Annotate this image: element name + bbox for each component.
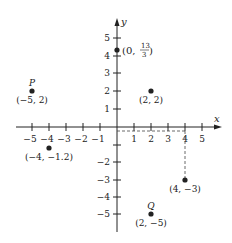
point-p-label: (−5, 2) [16,95,48,105]
svg-text:3: 3 [165,134,171,144]
svg-text:−2: −2 [97,157,110,167]
x-tick-labels: −5 −4 −3 −2 −1 1 2 3 4 5 [23,134,205,144]
svg-text:−4: −4 [40,134,54,144]
x-axis-label: x [214,113,220,124]
point-2-2 [148,88,153,93]
y-tick-labels: 5 4 3 2 1 −2 −3 −4 −5 [97,33,111,219]
point-0-13-3 [114,47,119,52]
point-q-name: Q [147,201,155,211]
svg-text:5: 5 [199,134,205,144]
svg-text:−5: −5 [97,209,111,219]
point-0-13-3-label-open: (0, [122,45,135,56]
svg-text:4: 4 [104,51,110,61]
point-4-m3 [182,177,187,182]
svg-text:−3: −3 [57,134,71,144]
svg-text:1: 1 [131,134,137,144]
svg-text:−2: −2 [74,134,87,144]
point-p [29,88,34,93]
svg-text:−4: −4 [97,192,111,202]
y-axis-arrow-icon [115,18,120,26]
svg-text:−3: −3 [97,175,111,185]
x-axis-arrow-icon [214,125,222,130]
point-2-2-label: (2, 2) [139,95,163,105]
point-4-m3-label: (4, −3) [169,184,201,194]
point-0-13-3-label-den: 3 [142,51,146,59]
svg-text:3: 3 [104,68,110,78]
point-p-name: P [28,78,36,88]
coordinate-plane: x y −5 −4 −3 −2 −1 1 2 3 4 5 [0,0,232,243]
svg-text:2: 2 [104,86,110,96]
point-m4-m1-2 [46,145,51,150]
point-0-13-3-label-close: ) [149,45,153,56]
point-q [148,211,153,216]
svg-text:5: 5 [104,33,110,43]
y-axis-label: y [120,16,127,27]
svg-text:2: 2 [148,134,154,144]
point-q-label: (2, −5) [135,218,167,228]
svg-text:1: 1 [104,104,110,114]
svg-text:−5: −5 [23,134,37,144]
point-m4-m1-2-label: (−4, −1.2) [25,152,73,162]
svg-text:−1: −1 [91,134,104,144]
